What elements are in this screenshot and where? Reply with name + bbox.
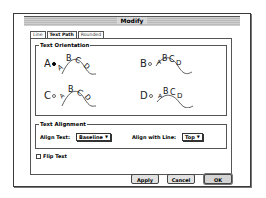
title-bar[interactable]: Modify (24, 16, 240, 26)
tab-rounded[interactable]: Rounded (78, 31, 104, 38)
radio-b[interactable] (148, 62, 152, 66)
path-preview-b-icon: A B C D (154, 52, 194, 76)
option-a-letter: A (44, 59, 51, 69)
ok-button[interactable]: OK (204, 174, 232, 184)
svg-text:D: D (176, 59, 181, 67)
orientation-option-d[interactable]: D A B C D (140, 84, 195, 108)
dialog-title: Modify (117, 17, 148, 24)
option-c-letter: C (44, 91, 51, 101)
svg-text:B: B (68, 85, 74, 94)
align-text-value: Baseline (79, 134, 103, 140)
svg-text:C: C (170, 88, 176, 97)
orientation-option-a[interactable]: A A B C D (44, 52, 98, 76)
option-b-letter: B (140, 59, 147, 69)
svg-text:D: D (177, 92, 182, 100)
svg-text:D: D (82, 62, 91, 72)
cancel-button[interactable]: Cancel (167, 174, 195, 184)
text-alignment-group: Text Alignment Align Text: Baseline ▼ Al… (35, 124, 227, 149)
svg-text:D: D (83, 93, 93, 102)
path-preview-c-icon: A B C D (58, 84, 98, 108)
path-preview-a-icon: A B C D (58, 52, 98, 76)
radio-d[interactable] (149, 94, 153, 98)
tab-strip: Line Text Path Rounded (30, 31, 105, 38)
radio-c[interactable] (52, 94, 56, 98)
tab-panel: Text Orientation A A B C D B A (30, 38, 232, 175)
flip-text-checkbox[interactable]: Flip Text (36, 153, 67, 159)
text-orientation-label: Text Orientation (39, 42, 90, 49)
flip-text-label: Flip Text (43, 153, 67, 159)
align-text-row: Align Text: Baseline ▼ (40, 133, 111, 141)
svg-text:C: C (74, 55, 83, 66)
apply-button[interactable]: Apply (131, 174, 159, 184)
svg-text:B: B (162, 54, 168, 63)
svg-text:B: B (66, 54, 72, 63)
align-line-label: Align with Line: (132, 134, 176, 140)
svg-text:A: A (58, 91, 66, 100)
text-alignment-label: Text Alignment (39, 121, 87, 128)
chevron-down-icon: ▼ (105, 134, 108, 140)
option-d-letter: D (140, 91, 148, 101)
orientation-option-c[interactable]: C A B C D (44, 84, 98, 108)
radio-a[interactable] (52, 62, 56, 66)
svg-text:C: C (169, 55, 175, 64)
checkbox-icon[interactable] (36, 154, 41, 159)
svg-text:B: B (163, 87, 169, 96)
modify-dialog: Modify Line Text Path Rounded Text Orien… (13, 13, 251, 187)
align-line-value: Top (185, 134, 195, 140)
path-preview-d-icon: A B C D (155, 84, 195, 108)
orientation-option-b[interactable]: B A B C D (140, 52, 194, 76)
tab-line[interactable]: Line (30, 31, 46, 38)
text-orientation-group: Text Orientation A A B C D B A (35, 45, 227, 116)
align-line-select[interactable]: Top ▼ (182, 133, 203, 141)
align-text-label: Align Text: (40, 134, 70, 140)
align-line-row: Align with Line: Top ▼ (132, 133, 203, 141)
align-text-select[interactable]: Baseline ▼ (76, 133, 111, 141)
chevron-down-icon: ▼ (197, 134, 200, 140)
